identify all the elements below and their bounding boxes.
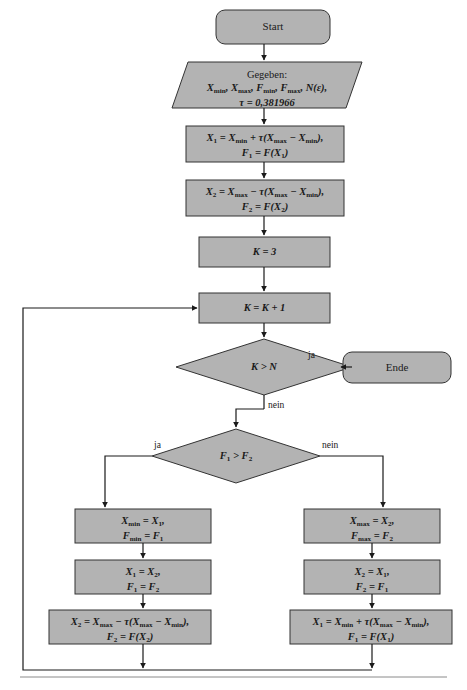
node-k-init-shape [199,237,330,267]
node-right3-shape [290,610,452,644]
edge-dec-ff-no-to-right1 [320,456,383,507]
node-left3-shape [49,610,211,644]
flowchart-page: Start Gegeben: Xmin, Xmax, Fmin, Fmax, N… [0,0,467,690]
node-ende-shape [343,352,451,383]
node-init-x2-shape [186,180,344,216]
node-right2-shape [304,560,440,594]
edge-dec-kn-no-bend [236,409,264,427]
node-right1-shape [304,509,440,543]
flowchart-canvas [0,0,467,690]
node-input-shape [172,62,362,108]
edge-dec-ff-yes-to-left1 [105,456,152,507]
node-dec-kn-shape [176,339,352,395]
node-k-incr-shape [199,293,330,323]
node-start-shape [216,10,330,44]
node-left2-shape [75,560,211,594]
node-init-x1-shape [186,126,344,162]
node-left1-shape [75,509,211,543]
node-dec-ff-shape [152,429,320,483]
